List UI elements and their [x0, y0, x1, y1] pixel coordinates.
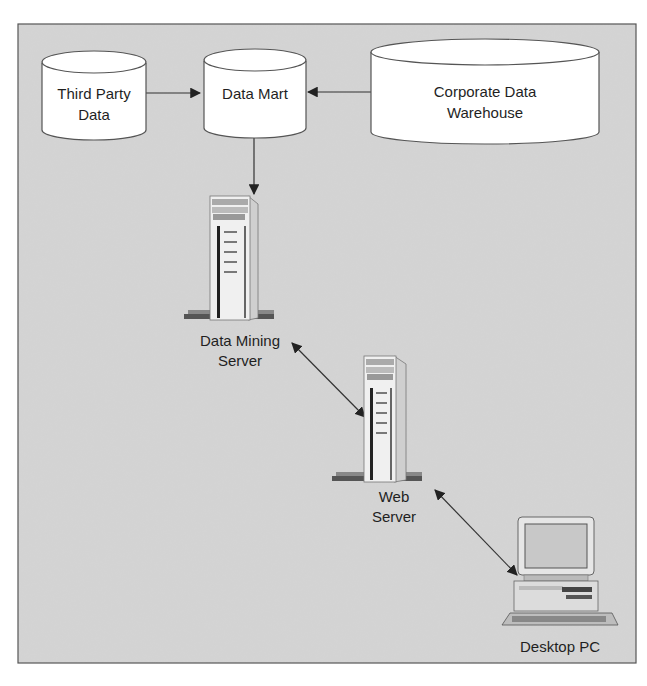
node-label: Server	[218, 352, 262, 369]
node-label: Corporate Data	[434, 83, 537, 100]
node-label: Data	[78, 106, 110, 123]
node-label: Desktop PC	[520, 638, 600, 655]
node-label: Server	[372, 508, 416, 525]
node-label: Third Party	[57, 85, 131, 102]
database-corporate-data-warehouse: Corporate Data Warehouse	[371, 39, 599, 144]
node-label: Web	[379, 488, 410, 505]
architecture-diagram: Third Party Data Data Mart Corporate Dat…	[0, 0, 647, 686]
node-label: Data Mart	[222, 85, 289, 102]
database-third-party-data: Third Party Data	[42, 51, 146, 140]
database-data-mart: Data Mart	[204, 49, 306, 138]
node-label: Warehouse	[447, 104, 523, 121]
node-label: Data Mining	[200, 332, 280, 349]
